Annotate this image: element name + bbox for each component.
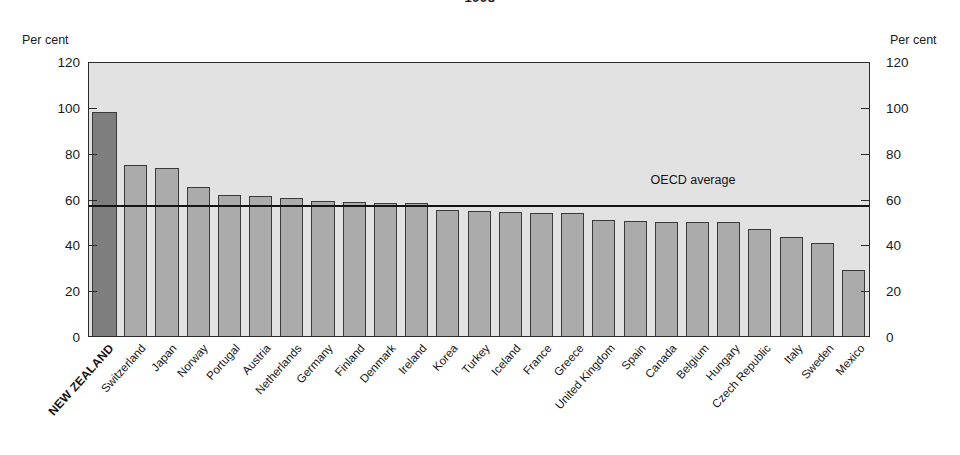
bar-slot (151, 63, 182, 336)
bar-turkey (468, 211, 491, 336)
bar-slot (120, 63, 151, 336)
x-axis-label-turkey: Turkey (459, 342, 491, 376)
x-axis-label-united-kingdom: United Kingdom (553, 342, 617, 411)
x-axis-label-iceland: Iceland (489, 342, 523, 378)
bar-germany (311, 201, 334, 336)
bar-ireland (405, 203, 428, 336)
y-axis-label-left-120: 120 (20, 55, 80, 70)
y-axis-label-right-60: 60 (886, 192, 946, 207)
bar-slot (463, 63, 494, 336)
y-axis-label-right-20: 20 (886, 284, 946, 299)
bar-slot (775, 63, 806, 336)
chart-title: 1998 (0, 0, 960, 3)
bar-austria (249, 196, 272, 336)
bar-hungary (717, 222, 740, 336)
y-tick-left-20 (88, 291, 97, 292)
y-axis-label-right-80: 80 (886, 146, 946, 161)
bar-korea (436, 210, 459, 336)
y-tick-left-100 (88, 108, 97, 109)
oecd-average-line (89, 205, 869, 207)
x-axis-label-sweden: Sweden (799, 342, 836, 381)
x-axis-label-ireland: Ireland (396, 342, 428, 376)
oecd-average-label: OECD average (651, 173, 736, 190)
chart-figure: 1998 Per cent Per cent OECD average 0020… (0, 0, 960, 455)
x-axis-label-spain: Spain (619, 342, 647, 372)
bar-slot (557, 63, 588, 336)
x-axis-label-mexico: Mexico (834, 342, 867, 377)
bar-portugal (218, 195, 241, 336)
bar-netherlands (280, 198, 303, 336)
bar-slot (744, 63, 775, 336)
bar-slot (370, 63, 401, 336)
bar-slot (713, 63, 744, 336)
bar-slot (619, 63, 650, 336)
bar-mexico (842, 270, 865, 336)
x-axis-label-france: France (521, 342, 554, 377)
y-tick-right-80 (861, 154, 870, 155)
bar-slot (651, 63, 682, 336)
bar-iceland (499, 212, 522, 336)
y-axis-label-right-0: 0 (886, 330, 946, 345)
y-tick-left-80 (88, 154, 97, 155)
y-axis-unit-left: Per cent (22, 33, 69, 47)
bar-slot (307, 63, 338, 336)
bar-denmark (374, 203, 397, 336)
bar-france (530, 213, 553, 336)
bar-norway (187, 187, 210, 336)
bar-greece (561, 213, 584, 336)
bars-layer (89, 63, 869, 336)
bar-belgium (686, 222, 709, 336)
bar-canada (655, 222, 678, 336)
bar-japan (155, 168, 178, 336)
y-axis-label-left-0: 0 (20, 330, 80, 345)
y-axis-label-left-100: 100 (20, 100, 80, 115)
bar-slot (432, 63, 463, 336)
x-axis-label-korea: Korea (431, 342, 460, 373)
y-axis-label-right-40: 40 (886, 238, 946, 253)
bar-slot (245, 63, 276, 336)
y-tick-right-60 (861, 200, 870, 201)
y-tick-right-20 (861, 291, 870, 292)
bar-slot (401, 63, 432, 336)
y-tick-right-40 (861, 245, 870, 246)
bar-slot (588, 63, 619, 336)
bar-italy (780, 237, 803, 336)
bar-slot (214, 63, 245, 336)
bar-switzerland (124, 165, 147, 336)
y-axis-label-left-80: 80 (20, 146, 80, 161)
x-axis-label-canada: Canada (643, 342, 679, 380)
bar-slot (183, 63, 214, 336)
y-tick-left-40 (88, 245, 97, 246)
bar-slot (526, 63, 557, 336)
x-axis-label-italy: Italy (781, 342, 804, 366)
y-axis-label-left-20: 20 (20, 284, 80, 299)
y-axis-label-left-60: 60 (20, 192, 80, 207)
bar-slot (276, 63, 307, 336)
plot-area: OECD average (88, 62, 870, 337)
bar-new-zealand (92, 112, 117, 336)
y-axis-label-right-100: 100 (886, 100, 946, 115)
y-tick-left-60 (88, 200, 97, 201)
x-axis-labels: NEW ZEALANDSwitzerlandJapanNorwayPortuga… (88, 338, 870, 455)
bar-czech-republic (748, 229, 771, 336)
y-axis-label-right-120: 120 (886, 55, 946, 70)
y-tick-right-100 (861, 108, 870, 109)
y-axis-unit-right: Per cent (890, 33, 937, 47)
bar-slot (682, 63, 713, 336)
bar-united-kingdom (592, 220, 615, 336)
bar-sweden (811, 243, 834, 336)
bar-slot (495, 63, 526, 336)
bar-finland (343, 202, 366, 336)
bar-spain (624, 221, 647, 336)
bar-slot (339, 63, 370, 336)
x-axis-label-czech-republic: Czech Republic (710, 342, 773, 410)
bar-slot (807, 63, 838, 336)
x-axis-label-portugal: Portugal (204, 342, 242, 382)
y-axis-label-left-40: 40 (20, 238, 80, 253)
